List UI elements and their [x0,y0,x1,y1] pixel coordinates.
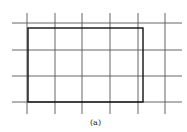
grid-diagram [0,0,187,132]
figure-caption: (a) [0,118,187,127]
highlight-rectangle [28,28,143,102]
